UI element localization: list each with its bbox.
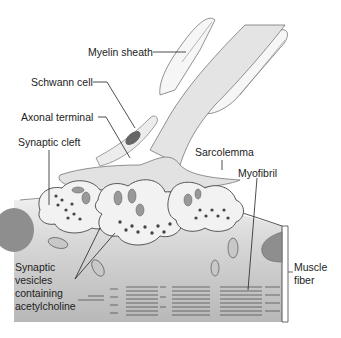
muscle-fiber-bracket <box>282 226 293 322</box>
label-vesicles-line4: acetylcholine <box>15 300 76 312</box>
label-schwann-cell: Schwann cell <box>31 76 93 88</box>
label-vesicles-line3: containing <box>15 287 63 299</box>
axon <box>150 25 285 165</box>
terminal-bouton-right <box>168 182 244 231</box>
label-axonal-terminal: Axonal terminal <box>21 111 93 123</box>
schwann-cell <box>96 116 157 166</box>
label-synaptic-cleft: Synaptic cleft <box>18 136 80 148</box>
label-myofibril: Myofibril <box>238 167 277 179</box>
label-sarcolemma: Sarcolemma <box>195 146 254 158</box>
label-myelin-sheath: Myelin sheath <box>88 46 153 58</box>
label-muscle-fiber-line2: fiber <box>294 274 314 286</box>
label-vesicles-line2: vesicles <box>15 274 52 286</box>
label-muscle-fiber-line1: Muscle <box>294 261 327 273</box>
label-vesicles-line1: Synaptic <box>15 261 55 273</box>
